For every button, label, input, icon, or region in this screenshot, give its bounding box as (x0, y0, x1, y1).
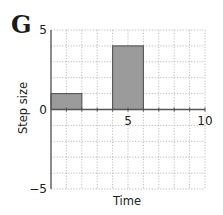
y-tick-label: 0 (39, 103, 47, 117)
bar (51, 94, 82, 110)
x-tick-label: 5 (124, 114, 132, 128)
y-tick-label: 5 (39, 23, 47, 37)
x-axis-title: Time (112, 194, 141, 208)
bar (113, 46, 144, 110)
y-tick-label: −5 (29, 182, 47, 196)
y-axis-title: Step size (16, 82, 30, 134)
x-tick-label: 10 (197, 114, 212, 128)
step-size-chart: 510−505 Time Step size (0, 0, 223, 215)
